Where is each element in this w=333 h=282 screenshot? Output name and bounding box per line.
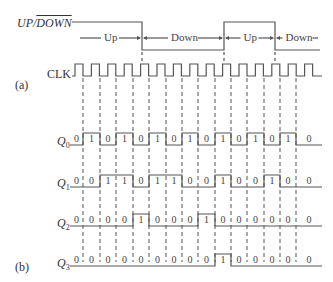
q0-value: 0 (264, 134, 280, 144)
q2-value: 0 (69, 215, 85, 225)
q0-value: 0 (199, 134, 215, 144)
q1-letter: Q (57, 176, 66, 190)
q2-value: 0 (150, 215, 166, 225)
left-arrow-icon (143, 36, 147, 40)
q0-value: 1 (117, 134, 133, 144)
q3-value: 1 (215, 255, 231, 265)
q0-value: 1 (215, 134, 231, 144)
q3-value: 0 (199, 255, 215, 265)
q3-value: 0 (84, 255, 100, 265)
q1-value: 1 (100, 176, 116, 186)
q1-value: 0 (231, 176, 247, 186)
clk-waveform (72, 64, 322, 76)
q3-value: 0 (248, 255, 264, 265)
q2-value: 0 (231, 215, 247, 225)
q1-value: 1 (166, 176, 182, 186)
q3-value: 0 (301, 255, 317, 265)
right-arrow-icon (219, 36, 223, 40)
region-label-down: Down (286, 32, 313, 43)
q3-value: 0 (231, 255, 247, 265)
part-a-label: (a) (15, 79, 28, 91)
q2-value: 1 (199, 215, 215, 225)
right-arrow-icon (137, 36, 141, 40)
q2-value: 1 (133, 215, 149, 225)
q1-value: 1 (150, 176, 166, 186)
q1-value: 1 (264, 176, 280, 186)
q3-value: 0 (117, 255, 133, 265)
q0-value: 0 (69, 134, 85, 144)
q0-letter: Q (57, 134, 66, 148)
q2-letter: Q (57, 216, 66, 230)
q3-value: 0 (100, 255, 116, 265)
region-label-up: Up (244, 32, 257, 43)
q0-value: 1 (248, 134, 264, 144)
q2-value: 0 (182, 215, 198, 225)
region-label-down: Down (171, 32, 198, 43)
q0-value: 0 (301, 134, 317, 144)
q1-value: 1 (215, 176, 231, 186)
q0-value: 0 (231, 134, 247, 144)
updown-label-up: UP/ (17, 16, 36, 30)
part-b-label: (b) (15, 261, 29, 273)
q3-value: 0 (280, 255, 296, 265)
q2-value: 0 (100, 215, 116, 225)
q0-value: 0 (166, 134, 182, 144)
q0-value: 0 (100, 134, 116, 144)
q0-value: 0 (133, 134, 149, 144)
q3-letter: Q (57, 256, 66, 270)
q1-value: 0 (182, 176, 198, 186)
q1-value: 0 (199, 176, 215, 186)
q0-value: 1 (150, 134, 166, 144)
q2-value: 0 (84, 215, 100, 225)
updown-label: UP/DOWN (17, 17, 72, 29)
q1-value: 0 (84, 176, 100, 186)
q0-value: 1 (182, 134, 198, 144)
q1-value: 0 (301, 176, 317, 186)
q2-value: 0 (248, 215, 264, 225)
q3-value: 0 (264, 255, 280, 265)
q3-value: 0 (166, 255, 182, 265)
q0-value: 1 (84, 134, 100, 144)
q3-value: 0 (133, 255, 149, 265)
clk-label: CLK (47, 68, 71, 80)
q3-value: 0 (182, 255, 198, 265)
q1-value: 0 (69, 176, 85, 186)
q2-value: 0 (166, 215, 182, 225)
left-arrow-icon (225, 36, 229, 40)
q2-value: 0 (280, 215, 296, 225)
q2-value: 0 (215, 215, 231, 225)
left-arrow-icon (276, 36, 280, 40)
q2-value: 0 (117, 215, 133, 225)
q2-value: 0 (301, 215, 317, 225)
q3-value: 0 (150, 255, 166, 265)
updown-label-down: DOWN (36, 16, 71, 30)
q0-value: 1 (280, 134, 296, 144)
q1-value: 1 (117, 176, 133, 186)
q3-value: 0 (69, 255, 85, 265)
q1-value: 0 (280, 176, 296, 186)
q1-value: 0 (133, 176, 149, 186)
region-label-up: Up (104, 32, 117, 43)
q1-value: 0 (248, 176, 264, 186)
right-arrow-icon (270, 36, 274, 40)
q2-value: 0 (264, 215, 280, 225)
